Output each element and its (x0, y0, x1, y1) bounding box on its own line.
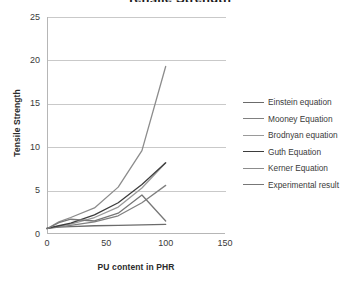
y-tick-label: 25 (10, 13, 40, 22)
legend-item[interactable]: Experimental result (243, 177, 358, 194)
chart-title-fragment: Tensile Strength (0, 0, 358, 2)
data-series-layer (47, 17, 225, 234)
legend-swatch-line-icon (243, 184, 264, 185)
line-chart: Tensile Strength 0510152025 050100150 PU… (0, 0, 358, 286)
legend-item[interactable]: Mooney Equation (243, 111, 358, 128)
legend-item-label: Einstein equation (268, 98, 332, 106)
chart-legend: Einstein equationMooney EquationBrodnyan… (243, 94, 358, 193)
legend-item-label: Mooney Equation (268, 115, 333, 123)
legend-item[interactable]: Einstein equation (243, 94, 358, 111)
legend-item-label: Experimental result (268, 181, 339, 189)
y-axis-title: Tensile Strength (12, 73, 22, 173)
x-tick-label: 50 (91, 239, 121, 248)
legend-swatch-line-icon (243, 102, 264, 103)
legend-swatch-line-icon (243, 135, 264, 136)
x-axis-title: PU content in PHR (47, 262, 225, 272)
legend-item-label: Kerner Equation (268, 164, 328, 172)
legend-item-label: Brodnyan equation (268, 131, 338, 139)
y-tick-label: 0 (10, 230, 40, 239)
x-tick-label: 0 (32, 239, 62, 248)
legend-swatch-line-icon (243, 168, 264, 169)
legend-swatch-line-icon (243, 118, 264, 119)
legend-item[interactable]: Kerner Equation (243, 160, 358, 177)
legend-swatch-line-icon (243, 151, 264, 152)
data-series-line (47, 66, 166, 228)
data-series-line (47, 185, 166, 228)
legend-item[interactable]: Guth Equation (243, 144, 358, 161)
legend-item-label: Guth Equation (268, 148, 321, 156)
y-tick-label: 20 (10, 56, 40, 65)
y-tick-label: 5 (10, 186, 40, 195)
x-tick-label: 100 (151, 239, 181, 248)
legend-item[interactable]: Brodnyan equation (243, 127, 358, 144)
x-tick-label: 150 (210, 239, 240, 248)
